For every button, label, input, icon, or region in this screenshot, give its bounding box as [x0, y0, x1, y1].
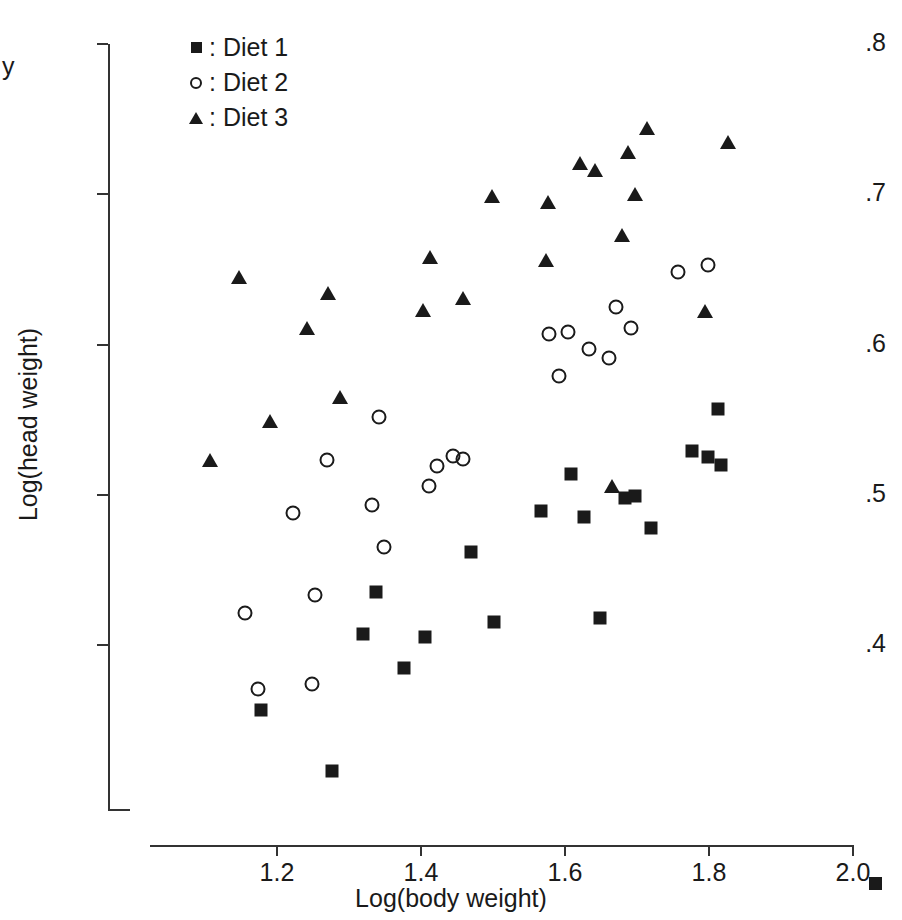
data-point-diet-1: [369, 586, 382, 599]
data-point-diet-3: [540, 195, 556, 209]
y-tick-mark: [97, 43, 108, 45]
data-point-diet-2: [365, 498, 380, 513]
data-point-diet-2: [609, 299, 624, 314]
data-point-diet-1: [578, 511, 591, 524]
data-point-diet-3: [262, 414, 278, 428]
data-point-diet-3: [720, 135, 736, 149]
data-point-diet-2: [320, 453, 335, 468]
x-axis-line: [150, 845, 853, 847]
y-tick-mark: [97, 644, 108, 646]
x-tick-label: 1.6: [525, 858, 605, 887]
x-tick-mark: [420, 845, 422, 856]
data-point-diet-3: [639, 121, 655, 135]
data-point-diet-3: [231, 270, 247, 284]
data-point-diet-1: [487, 616, 500, 629]
data-point-diet-2: [237, 606, 252, 621]
data-point-diet-2: [671, 265, 686, 280]
data-point-diet-1: [686, 445, 699, 458]
y-tick-mark: [97, 193, 108, 195]
data-point-diet-3: [415, 303, 431, 317]
data-point-diet-3: [484, 189, 500, 203]
data-point-diet-2: [560, 325, 575, 340]
x-tick-label: 1.2: [237, 858, 317, 887]
data-point-diet-1: [465, 545, 478, 558]
data-point-diet-3: [332, 390, 348, 404]
data-point-diet-1: [593, 611, 606, 624]
stray-ink-mark: [869, 877, 882, 890]
data-point-diet-2: [421, 478, 436, 493]
x-tick-mark: [564, 845, 566, 856]
data-point-diet-3: [697, 304, 713, 318]
data-point-diet-2: [285, 505, 300, 520]
y-axis-title-stub: y: [2, 52, 15, 81]
data-point-diet-2: [429, 459, 444, 474]
data-point-diet-1: [357, 628, 370, 641]
data-point-diet-1: [711, 403, 724, 416]
data-point-diet-1: [644, 521, 657, 534]
data-point-diet-2: [371, 409, 386, 424]
data-point-diet-2: [582, 342, 597, 357]
data-point-diet-2: [250, 681, 265, 696]
data-point-diet-1: [255, 703, 268, 716]
data-point-diet-3: [455, 291, 471, 305]
x-tick-mark: [852, 845, 854, 856]
data-point-diet-2: [376, 540, 391, 555]
data-point-diet-2: [601, 351, 616, 366]
data-point-diet-2: [542, 326, 557, 341]
data-point-diet-3: [299, 321, 315, 335]
data-point-diet-1: [535, 505, 548, 518]
data-point-diet-1: [714, 458, 727, 471]
data-point-diet-1: [628, 490, 641, 503]
data-point-diet-3: [320, 286, 336, 300]
x-tick-mark: [708, 845, 710, 856]
data-point-diet-1: [701, 451, 714, 464]
data-point-diet-3: [614, 228, 630, 242]
data-point-diet-3: [202, 453, 218, 467]
data-point-diet-3: [627, 187, 643, 201]
data-point-diet-1: [398, 661, 411, 674]
data-point-diet-2: [308, 588, 323, 603]
data-point-diet-2: [623, 320, 638, 335]
y-axis-title: Log(head weight): [14, 260, 43, 590]
x-tick-label: 1.4: [381, 858, 461, 887]
data-point-diet-2: [456, 451, 471, 466]
data-point-diet-2: [551, 369, 566, 384]
data-point-diet-3: [422, 250, 438, 264]
data-point-diet-1: [565, 467, 578, 480]
x-axis-title: Log(body weight): [0, 884, 902, 913]
data-point-diet-3: [620, 145, 636, 159]
data-point-diet-1: [325, 765, 338, 778]
data-point-diet-3: [538, 253, 554, 267]
data-point-diet-2: [304, 677, 319, 692]
y-tick-mark: [97, 344, 108, 346]
data-point-diet-1: [418, 631, 431, 644]
plot-area: [108, 44, 853, 845]
data-point-diet-2: [701, 257, 716, 272]
x-tick-mark: [276, 845, 278, 856]
x-tick-label: 1.8: [669, 858, 749, 887]
scatter-plot-figure: .8.7.6.5.4 1.21.41.61.82.0 y Log(head we…: [0, 0, 902, 920]
y-tick-mark: [97, 494, 108, 496]
data-point-diet-3: [604, 479, 620, 493]
data-point-diet-3: [587, 163, 603, 177]
